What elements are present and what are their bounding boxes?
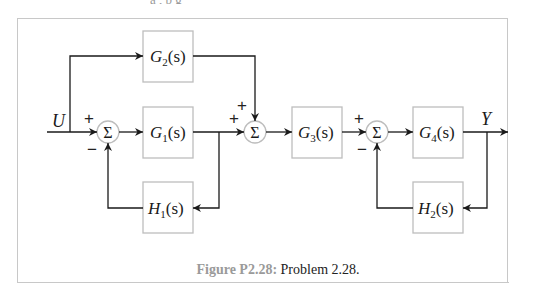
svg-text:G3(s): G3(s) (298, 123, 334, 144)
block-h1: H1(s) (143, 182, 193, 233)
svg-text:G2(s): G2(s) (150, 47, 186, 68)
summing-junction-1: Σ (97, 121, 119, 143)
block-diagram: G2(s) G1(s) H1(s) G3(s) G4(s) H2(s) Σ Σ … (0, 0, 556, 295)
block-g4: G4(s) (413, 107, 463, 158)
svg-text:G1(s): G1(s) (150, 123, 186, 144)
output-signal-label: Y (481, 109, 493, 129)
sum2-left-plus-sign: + (229, 109, 239, 128)
svg-text:H2(s): H2(s) (417, 199, 454, 220)
svg-text:Σ: Σ (250, 124, 259, 141)
svg-text:Σ: Σ (372, 124, 381, 141)
sum3-minus-sign: − (357, 140, 367, 159)
sum3-plus-sign: + (354, 109, 364, 128)
h1-feedback-branch (193, 132, 219, 208)
block-g2: G2(s) (143, 31, 193, 82)
block-g3: G3(s) (292, 107, 342, 158)
summing-junction-3: Σ (366, 121, 388, 143)
caption-text: Problem 2.28. (277, 262, 359, 277)
block-g1: G1(s) (143, 107, 193, 158)
block-h2: H2(s) (413, 182, 463, 233)
svg-text:G4(s): G4(s) (419, 123, 455, 144)
sum1-minus-sign: − (87, 140, 97, 159)
summing-junction-2: Σ (244, 121, 266, 143)
figure-caption: Figure P2.28: Problem 2.28. (0, 262, 556, 278)
input-signal-label: U (52, 111, 66, 131)
svg-text:Σ: Σ (103, 124, 112, 141)
caption-label: Figure P2.28: (196, 262, 277, 277)
sum1-plus-sign: + (84, 109, 94, 128)
svg-text:H1(s): H1(s) (147, 199, 184, 220)
